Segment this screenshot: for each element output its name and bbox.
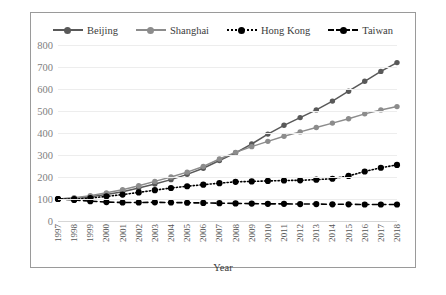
data-point-marker bbox=[184, 169, 189, 174]
x-axis-tick-label: 2004 bbox=[166, 224, 176, 242]
x-axis-tick-label: 2003 bbox=[150, 224, 160, 242]
legend-label: Taiwan bbox=[362, 25, 393, 36]
gridline bbox=[58, 199, 397, 200]
data-point-marker bbox=[201, 164, 206, 169]
data-point-marker bbox=[378, 201, 384, 207]
data-point-marker bbox=[200, 200, 206, 206]
legend-item[interactable]: Hong Kong bbox=[227, 25, 310, 36]
x-axis-tick-label: 2002 bbox=[134, 224, 144, 242]
x-axis-tick-label: 2013 bbox=[311, 224, 321, 242]
x-axis-tick-label: 2018 bbox=[392, 224, 402, 242]
legend-label: Hong Kong bbox=[261, 25, 310, 36]
chart-legend: BeijingShanghaiHong KongTaiwan bbox=[30, 22, 416, 38]
legend-swatch-icon bbox=[227, 25, 257, 35]
x-axis-tick-label: 1998 bbox=[69, 224, 79, 242]
x-axis-tick-label: 1999 bbox=[85, 224, 95, 242]
data-point-marker bbox=[314, 125, 319, 130]
data-point-marker bbox=[330, 120, 335, 125]
x-axis-line bbox=[58, 221, 397, 222]
data-point-marker bbox=[168, 185, 174, 191]
x-axis-tick-label: 2009 bbox=[247, 224, 257, 242]
data-point-marker bbox=[297, 177, 303, 183]
data-point-marker bbox=[281, 177, 287, 183]
gridline bbox=[58, 67, 397, 68]
data-point-marker bbox=[232, 200, 238, 206]
data-point-marker bbox=[378, 69, 383, 74]
data-point-marker bbox=[184, 183, 190, 189]
y-axis-tick-label: 100 bbox=[37, 194, 53, 205]
data-point-marker bbox=[265, 178, 271, 184]
legend-item[interactable]: Taiwan bbox=[328, 25, 393, 36]
gridline bbox=[58, 177, 397, 178]
data-point-marker bbox=[184, 200, 190, 206]
x-axis-title: Year bbox=[30, 262, 416, 273]
data-point-marker bbox=[345, 201, 351, 207]
legend-item[interactable]: Shanghai bbox=[136, 25, 209, 36]
data-point-marker bbox=[217, 156, 222, 161]
y-axis-tick-label: 400 bbox=[37, 128, 53, 139]
data-point-marker bbox=[345, 173, 351, 179]
data-point-marker bbox=[119, 192, 125, 198]
data-point-marker bbox=[362, 168, 368, 174]
data-point-marker bbox=[394, 104, 399, 109]
data-point-marker bbox=[200, 182, 206, 188]
y-axis-tick-label: 500 bbox=[37, 106, 53, 117]
x-axis-tick-label: 2006 bbox=[198, 224, 208, 242]
gridline bbox=[58, 155, 397, 156]
data-point-marker bbox=[346, 116, 351, 121]
data-point-marker bbox=[362, 201, 368, 207]
gridline bbox=[58, 45, 397, 46]
y-axis-tick-label: 700 bbox=[37, 62, 53, 73]
x-axis-tick-label: 2012 bbox=[295, 224, 305, 242]
y-axis-tick-label: 200 bbox=[37, 172, 53, 183]
y-axis-tick-label: 300 bbox=[37, 150, 53, 161]
data-point-marker bbox=[216, 180, 222, 186]
y-axis-tick-label: 600 bbox=[37, 84, 53, 95]
data-point-marker bbox=[281, 123, 286, 128]
data-point-marker bbox=[119, 199, 125, 205]
x-axis-tick-label: 2000 bbox=[101, 224, 111, 242]
data-point-marker bbox=[232, 179, 238, 185]
data-point-marker bbox=[313, 201, 319, 207]
x-axis-tick-label: 2016 bbox=[360, 224, 370, 242]
gridline bbox=[58, 89, 397, 90]
x-axis-tick-label: 2005 bbox=[182, 224, 192, 242]
y-axis-tick-label: 800 bbox=[37, 40, 53, 51]
legend-label: Shanghai bbox=[170, 25, 209, 36]
legend-swatch-icon bbox=[328, 25, 358, 35]
plot-area: 0100200300400500600700800 bbox=[58, 45, 397, 221]
data-point-marker bbox=[281, 134, 286, 139]
data-point-marker bbox=[249, 201, 255, 207]
x-axis-tick-label: 2017 bbox=[376, 224, 386, 242]
data-point-marker bbox=[136, 199, 142, 205]
data-point-marker bbox=[329, 201, 335, 207]
gridline bbox=[58, 133, 397, 134]
legend-item[interactable]: Beijing bbox=[53, 25, 118, 36]
legend-swatch-icon bbox=[136, 25, 166, 35]
data-point-marker bbox=[265, 139, 270, 144]
data-point-marker bbox=[136, 189, 142, 195]
data-point-marker bbox=[249, 178, 255, 184]
legend-label: Beijing bbox=[87, 25, 118, 36]
series-line bbox=[58, 107, 397, 199]
data-point-marker bbox=[216, 200, 222, 206]
data-point-marker bbox=[265, 201, 271, 207]
data-point-marker bbox=[394, 201, 400, 207]
x-axis-tick-label: 2011 bbox=[279, 224, 289, 242]
data-point-marker bbox=[249, 144, 254, 149]
chart-figure: BeijingShanghaiHong KongTaiwan 010020030… bbox=[0, 0, 446, 295]
x-axis-tick-label: 2014 bbox=[327, 224, 337, 242]
x-axis-tick-label: 2007 bbox=[214, 224, 224, 242]
data-point-marker bbox=[152, 187, 158, 193]
data-point-marker bbox=[152, 199, 158, 205]
x-axis-tick-label: 2010 bbox=[263, 224, 273, 242]
x-axis-tick-label: 2008 bbox=[231, 224, 241, 242]
data-point-marker bbox=[378, 165, 384, 171]
data-point-marker bbox=[394, 162, 400, 168]
gridline bbox=[58, 111, 397, 112]
x-axis-tick-labels: 1997199819992000200120022003200420052006… bbox=[58, 224, 397, 262]
data-point-marker bbox=[362, 79, 367, 84]
data-point-marker bbox=[297, 115, 302, 120]
data-point-marker bbox=[330, 98, 335, 103]
data-point-marker bbox=[394, 60, 399, 65]
